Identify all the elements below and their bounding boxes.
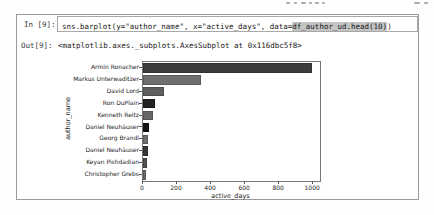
y-tick-mark bbox=[139, 79, 142, 80]
bar-armin-ronacher bbox=[143, 63, 312, 73]
x-tick-label: 800 bbox=[272, 184, 283, 191]
code-pre: sns.barplot(y="author_name", x="active_d… bbox=[62, 22, 292, 31]
y-tick-label: Christopher Grebs bbox=[0, 168, 139, 180]
bar-david-lord bbox=[143, 87, 164, 97]
x-axis-title: active_days bbox=[142, 192, 319, 200]
y-tick-mark bbox=[139, 126, 142, 127]
y-axis-title: author_name bbox=[64, 87, 73, 151]
x-tick-label: 1000 bbox=[305, 184, 320, 191]
y-tick-mark bbox=[139, 138, 142, 139]
x-tick-label: 0 bbox=[140, 184, 144, 191]
notebook-screenshot: In [9]: sns.barplot(y="author_name", x="… bbox=[0, 0, 434, 215]
code-input[interactable]: sns.barplot(y="author_name", x="active_d… bbox=[57, 16, 418, 32]
y-tick-mark bbox=[139, 150, 142, 151]
y-tick-label: Keyan Pishdadian bbox=[0, 156, 139, 168]
code-text: sns.barplot(y="author_name", x="active_d… bbox=[62, 22, 392, 31]
bar-georg-brandl bbox=[143, 135, 148, 145]
y-tick-label: Armin Ronacher bbox=[0, 61, 139, 73]
bar-kenneth-reitz bbox=[143, 111, 153, 121]
code-post: ) bbox=[387, 22, 392, 31]
y-tick-mark bbox=[139, 91, 142, 92]
y-tick-mark bbox=[139, 162, 142, 163]
input-prompt: In [9]: bbox=[24, 20, 56, 29]
bar-christopher-grebs bbox=[143, 170, 146, 180]
x-tick-label: 200 bbox=[170, 184, 181, 191]
barplot-plot-area bbox=[142, 61, 321, 182]
output-repr: <matplotlib.axes._subplots.AxesSubplot a… bbox=[58, 41, 302, 50]
bar-daniel-neuh-user bbox=[143, 146, 148, 156]
x-tick-label: 600 bbox=[238, 184, 249, 191]
y-tick-mark bbox=[139, 174, 142, 175]
bar-markus-unterwaditzer bbox=[143, 75, 201, 85]
y-tick-mark bbox=[139, 103, 142, 104]
y-tick-mark bbox=[139, 115, 142, 116]
bar-keyan-pishdadian bbox=[143, 158, 147, 168]
x-tick-label: 400 bbox=[204, 184, 215, 191]
code-highlight: df_author_ud.head(10) bbox=[292, 22, 387, 31]
output-prompt: Out[9]: bbox=[21, 41, 53, 50]
y-tick-mark bbox=[139, 67, 142, 68]
bar-ron-duplain bbox=[143, 99, 155, 109]
y-tick-label: Markus Unterwaditzer bbox=[0, 73, 139, 85]
bar-daniel-neuh-user bbox=[143, 123, 149, 133]
